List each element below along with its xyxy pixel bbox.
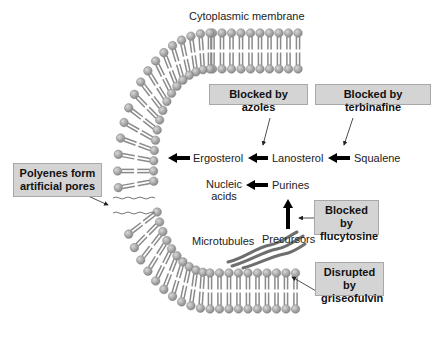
label-nucleic-acids: Nucleic acids — [205, 178, 243, 202]
membrane-title: Cytoplasmic membrane — [189, 10, 305, 22]
callout-griseofulvin: Disrupted by griseofulvin — [315, 262, 384, 296]
callout-terbinafine-text: Blocked by terbinafine — [344, 88, 403, 113]
callout-polyenes-line2: artificial pores — [19, 180, 96, 193]
lipid-bilayer — [113, 29, 302, 314]
pore-edges — [113, 197, 155, 214]
label-squalene: Squalene — [354, 152, 401, 164]
callout-polyenes-line1: Polyenes form — [19, 167, 96, 180]
label-purines: Purines — [272, 179, 309, 191]
label-nucleic-acids-line2: acids — [205, 190, 243, 202]
callout-flucytosine: Blocked by flucytosine — [314, 200, 379, 235]
callout-griseofulvin-line2: griseofulvin — [321, 292, 378, 305]
label-microtubules: Microtubules — [192, 235, 254, 247]
callout-terbinafine: Blocked by terbinafine — [315, 84, 431, 105]
callout-azoles: Blocked by azoles — [209, 84, 308, 105]
callout-polyenes: Polyenes form artificial pores — [13, 163, 102, 197]
arrow-ergosterol-to-membrane — [168, 153, 190, 163]
label-lanosterol: Lanosterol — [272, 152, 323, 164]
label-precursors: Precursors — [262, 233, 315, 245]
callout-flucytosine-line1: Blocked by — [320, 204, 373, 230]
callout-griseofulvin-line1: Disrupted by — [321, 266, 378, 292]
arrow-squalene-to-lanosterol — [328, 153, 350, 163]
callout-flucytosine-line2: flucytosine — [320, 230, 373, 243]
label-nucleic-acids-line1: Nucleic — [205, 178, 243, 190]
arrow-lanosterol-to-ergosterol — [248, 153, 268, 163]
arrow-precursors-to-purines — [283, 199, 293, 229]
label-ergosterol: Ergosterol — [193, 152, 243, 164]
arrow-purines-to-nucleic-acids — [246, 180, 268, 190]
